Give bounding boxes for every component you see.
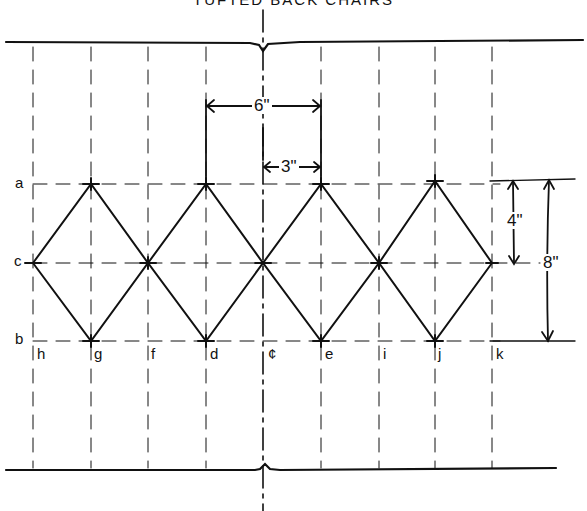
- column-label-h: h: [37, 346, 45, 361]
- column-label-e: e: [325, 346, 333, 361]
- dimension-label-8in: 8": [541, 254, 561, 271]
- row-label-c: c: [14, 253, 22, 268]
- dimension-label-4in: 4": [505, 212, 525, 229]
- column-label-i: i: [383, 346, 386, 361]
- tufting-diagram: [0, 0, 587, 511]
- dimension-label-6in: 6": [252, 97, 272, 114]
- row-label-a: a: [15, 175, 23, 190]
- column-label-centerline: ¢: [268, 346, 276, 361]
- dimension-label-3in: 3": [279, 158, 299, 175]
- top-boundary-line: [6, 40, 583, 51]
- row-label-b: b: [15, 331, 23, 346]
- column-label-d: d: [210, 346, 218, 361]
- column-label-k: k: [496, 346, 504, 361]
- column-label-j: j: [438, 346, 441, 361]
- bottom-boundary-line: [6, 464, 556, 470]
- column-label-g: g: [94, 346, 102, 361]
- column-label-f: f: [151, 346, 155, 361]
